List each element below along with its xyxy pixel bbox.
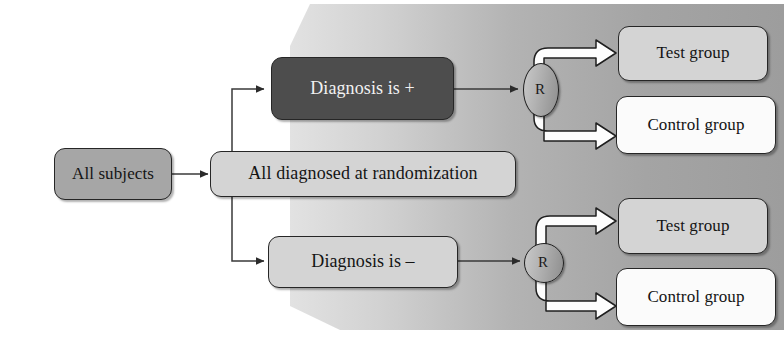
diagram-canvas: All subjects All diagnosed at randomizat… bbox=[0, 0, 784, 348]
node-randomizer-positive-label: R bbox=[535, 82, 545, 97]
node-diagnosis-negative-label: Diagnosis is – bbox=[311, 252, 414, 272]
node-all-subjects[interactable]: All subjects bbox=[54, 148, 172, 200]
node-test-group-negative[interactable]: Test group bbox=[618, 198, 768, 254]
edge-diagnosed-to-negative bbox=[232, 196, 264, 261]
node-test-group-negative-label: Test group bbox=[657, 217, 730, 236]
edge-diagnosed-to-positive bbox=[232, 89, 264, 154]
node-all-diagnosed-label: All diagnosed at randomization bbox=[248, 164, 477, 184]
node-control-group-positive-label: Control group bbox=[647, 116, 744, 135]
node-diagnosis-negative[interactable]: Diagnosis is – bbox=[268, 236, 458, 288]
node-all-subjects-label: All subjects bbox=[72, 165, 154, 184]
node-control-group-negative-label: Control group bbox=[647, 288, 744, 307]
node-randomizer-negative[interactable]: R bbox=[524, 243, 562, 281]
node-control-group-positive[interactable]: Control group bbox=[616, 96, 776, 154]
node-diagnosis-positive-label: Diagnosis is + bbox=[310, 79, 415, 99]
node-all-diagnosed[interactable]: All diagnosed at randomization bbox=[210, 151, 516, 197]
node-control-group-negative[interactable]: Control group bbox=[616, 268, 776, 326]
node-randomizer-negative-label: R bbox=[538, 255, 548, 270]
node-test-group-positive[interactable]: Test group bbox=[618, 26, 768, 81]
node-test-group-positive-label: Test group bbox=[657, 44, 730, 63]
node-diagnosis-positive[interactable]: Diagnosis is + bbox=[271, 57, 454, 120]
node-randomizer-positive[interactable]: R bbox=[523, 63, 557, 115]
